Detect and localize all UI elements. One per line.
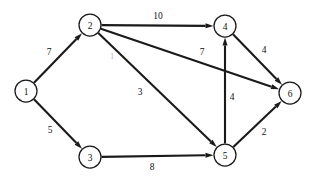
edges-layer bbox=[34, 23, 282, 157]
edge-weight-3-5: 8 bbox=[150, 162, 155, 172]
node-label-3: 3 bbox=[88, 153, 93, 163]
edge-line-3-5 bbox=[102, 155, 206, 157]
arrow-head-icon-5-4 bbox=[223, 38, 228, 46]
edge-weight-2-5: 3 bbox=[138, 87, 143, 97]
edge-weight-4-6: 4 bbox=[262, 45, 267, 55]
edge-line-2-6 bbox=[101, 29, 272, 87]
edge-line-2-5 bbox=[98, 33, 211, 141]
edge-weight-1-2: 7 bbox=[47, 47, 52, 57]
node-label-4: 4 bbox=[223, 22, 228, 32]
edge-line-4-6 bbox=[233, 34, 276, 79]
arrow-head-icon-2-4 bbox=[205, 23, 213, 28]
node-4[interactable]: 4 bbox=[214, 15, 236, 37]
edge-line-1-3 bbox=[34, 99, 76, 143]
node-label-1: 1 bbox=[24, 87, 29, 97]
node-label-2: 2 bbox=[88, 21, 93, 31]
node-label-6: 6 bbox=[288, 89, 293, 99]
node-5[interactable]: 5 bbox=[214, 144, 236, 166]
node-label-5: 5 bbox=[223, 151, 228, 161]
graph-canvas: 123456 75107318442 bbox=[0, 0, 314, 178]
arrow-head-icon-3-5 bbox=[205, 153, 213, 158]
edge-line-2-4 bbox=[102, 25, 206, 26]
edge-weight-2-5: 1 bbox=[110, 51, 114, 61]
node-2[interactable]: 2 bbox=[79, 14, 101, 36]
edge-line-5-6 bbox=[233, 106, 276, 147]
node-1[interactable]: 1 bbox=[15, 80, 37, 102]
graph-diagram: 123456 75107318442 bbox=[0, 0, 314, 178]
edge-weight-2-6: 7 bbox=[200, 47, 205, 57]
edge-line-1-2 bbox=[34, 39, 76, 83]
edge-weight-5-4: 4 bbox=[230, 92, 235, 102]
arrow-head-icon-2-6 bbox=[271, 84, 279, 89]
node-6[interactable]: 6 bbox=[279, 82, 301, 104]
edge-weight-5-6: 2 bbox=[262, 127, 267, 137]
edge-weight-1-3: 5 bbox=[48, 125, 53, 135]
edge-weight-2-4: 10 bbox=[153, 11, 163, 21]
node-3[interactable]: 3 bbox=[79, 146, 101, 168]
